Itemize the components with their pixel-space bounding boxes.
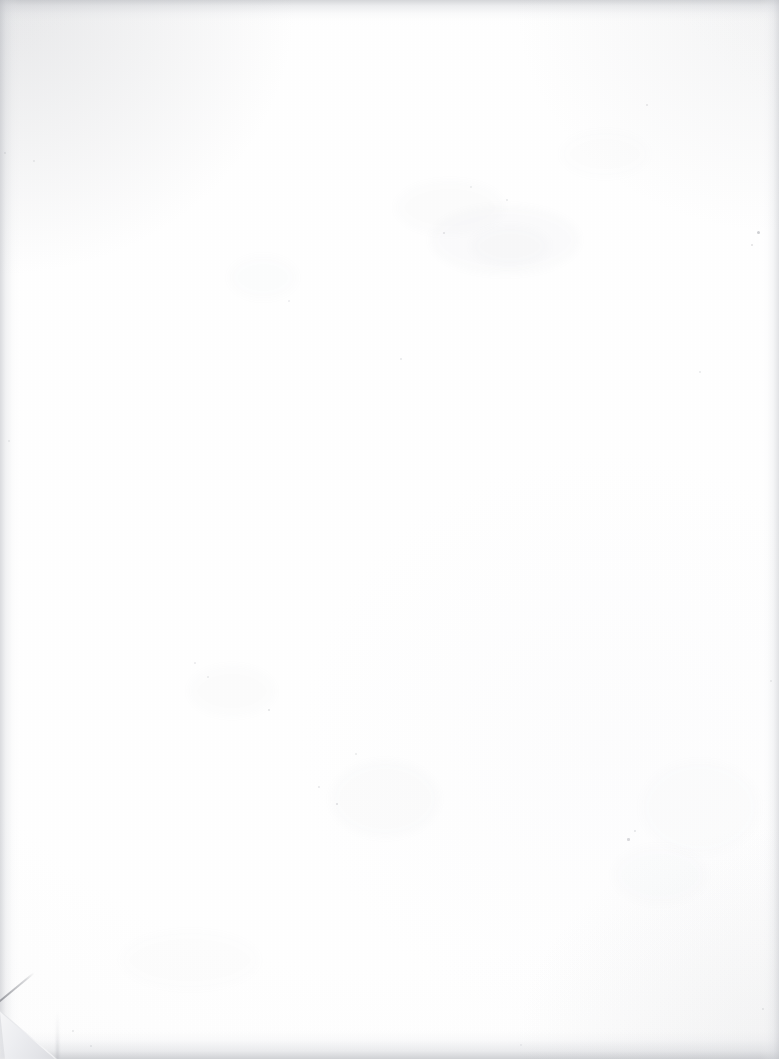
paper-grain-texture xyxy=(0,0,779,1059)
scanned-document-page xyxy=(0,0,779,1059)
